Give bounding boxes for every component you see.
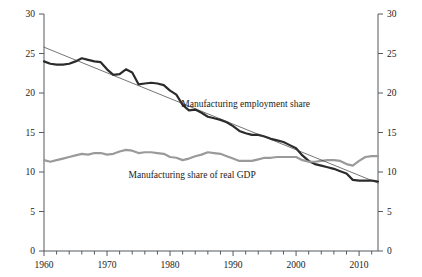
x-tick-label-1990: 1990	[224, 260, 243, 270]
y-tick-label-left-10: 10	[26, 167, 36, 177]
y-tick-label-right-25: 25	[387, 49, 397, 59]
y-tick-label-right-0: 0	[387, 246, 392, 256]
series-lines	[44, 47, 378, 183]
y-tick-label-left-25: 25	[26, 49, 36, 59]
y-tick-label-left-0: 0	[30, 246, 35, 256]
x-tick-label-2010: 2010	[350, 260, 369, 270]
series-annotations: Manufacturing employment shareManufactur…	[129, 99, 311, 179]
series-line-2	[44, 47, 378, 183]
x-axis-ticks	[44, 251, 372, 256]
y-tick-label-left-15: 15	[26, 128, 36, 138]
x-tick-label-1960: 1960	[35, 260, 54, 270]
y-axis-right-ticks	[378, 14, 383, 251]
y-tick-label-right-15: 15	[387, 128, 397, 138]
y-axis-right-tick-labels: 051015202530	[387, 9, 397, 256]
series-line-1	[44, 150, 378, 166]
y-tick-label-left-20: 20	[26, 88, 36, 98]
y-axis-left-ticks	[39, 14, 44, 251]
y-tick-label-right-20: 20	[387, 88, 397, 98]
gdp-share-label: Manufacturing share of real GDP	[129, 170, 256, 180]
y-tick-label-right-10: 10	[387, 167, 397, 177]
y-axis-left-tick-labels: 051015202530	[26, 9, 36, 256]
y-tick-label-left-5: 5	[30, 207, 35, 217]
y-tick-label-left-30: 30	[26, 9, 36, 19]
x-axis-tick-labels: 196019701980199020002010	[35, 260, 369, 270]
x-tick-label-1970: 1970	[98, 260, 117, 270]
x-tick-label-1980: 1980	[161, 260, 180, 270]
chart-container: 051015202530 051015202530 19601970198019…	[0, 0, 422, 277]
employment-share-label: Manufacturing employment share	[181, 99, 310, 109]
x-tick-label-2000: 2000	[287, 260, 306, 270]
manufacturing-share-line-chart: 051015202530 051015202530 19601970198019…	[0, 0, 422, 277]
y-tick-label-right-30: 30	[387, 9, 397, 19]
y-tick-label-right-5: 5	[387, 207, 392, 217]
